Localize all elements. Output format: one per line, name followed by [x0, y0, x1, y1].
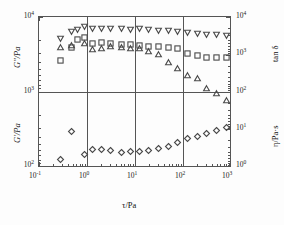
data-point-tan-delta: [184, 72, 191, 79]
data-point-tan-delta: [98, 45, 105, 52]
data-point-G-double-prime: [107, 25, 114, 32]
tick-bottom-minor: [116, 164, 117, 166]
tick-right-major: [226, 166, 230, 167]
data-point-G-double-prime-squares: [194, 52, 201, 59]
data-point-G-prime-eta: [118, 149, 125, 156]
data-point-G-double-prime: [223, 32, 230, 39]
data-point-G-double-prime-squares: [174, 45, 181, 52]
tick-right-minor: [228, 72, 230, 73]
ytick-label-left-1e3: 103: [8, 87, 34, 95]
tick-left-minor: [39, 75, 41, 76]
tick-left-minor: [39, 88, 41, 89]
data-point-G-prime-eta: [89, 146, 96, 153]
tick-bottom-minor: [80, 164, 81, 166]
tick-right-minor: [228, 118, 230, 119]
plot-frame: [38, 16, 231, 167]
data-point-G-prime-eta: [203, 130, 210, 137]
tick-left-minor: [39, 144, 41, 145]
tick-right-minor: [228, 66, 230, 67]
data-point-tan-delta: [165, 59, 172, 66]
data-point-tan-delta: [81, 40, 88, 47]
data-point-G-double-prime-squares: [223, 54, 230, 61]
data-point-G-prime-eta: [194, 133, 201, 140]
tick-bottom-minor: [76, 164, 77, 166]
tick-bottom-major: [135, 162, 136, 166]
data-point-tan-delta: [155, 51, 162, 58]
tick-bottom-minor: [124, 164, 125, 166]
tick-right-minor: [228, 90, 230, 91]
tick-bottom-minor: [130, 164, 131, 166]
tick-right-minor: [228, 121, 230, 122]
data-point-tan-delta: [194, 75, 201, 82]
data-point-tan-delta: [223, 97, 230, 104]
data-point-G-prime-eta: [223, 124, 230, 131]
data-point-tan-delta: [174, 65, 181, 72]
ytick-label-left-1e2: 102: [8, 161, 34, 169]
tick-bottom-minor: [68, 164, 69, 166]
tick-bottom-minor: [217, 164, 218, 166]
tick-bottom-minor: [101, 164, 102, 166]
tick-left-minor: [39, 150, 41, 151]
tick-bottom-minor: [82, 164, 83, 166]
tick-right-minor: [228, 28, 230, 29]
tick-top-major: [135, 17, 136, 21]
tick-bottom-minor: [128, 164, 129, 166]
data-point-tan-delta: [107, 43, 114, 50]
data-point-G-double-prime: [98, 25, 105, 32]
data-point-G-double-prime: [89, 25, 96, 32]
data-point-G-double-prime: [203, 31, 210, 38]
tick-left-minor: [39, 85, 41, 86]
data-point-G-prime-eta: [98, 146, 105, 153]
tick-right-minor: [228, 49, 230, 50]
data-point-G-prime-eta: [145, 147, 152, 154]
data-point-G-double-prime: [127, 26, 134, 33]
data-point-tan-delta: [203, 85, 210, 92]
data-point-G-double-prime: [213, 31, 220, 38]
data-point-G-double-prime-squares: [184, 50, 191, 57]
data-point-G-double-prime-squares: [165, 44, 172, 51]
tick-right-minor: [228, 155, 230, 156]
tick-right-minor: [228, 51, 230, 52]
data-point-tan-delta: [118, 44, 125, 51]
tick-bottom-minor: [197, 164, 198, 166]
tick-bottom-minor: [133, 164, 134, 166]
data-point-G-double-prime: [136, 25, 143, 32]
data-point-tan-delta: [68, 42, 75, 49]
tick-left-minor: [39, 137, 41, 138]
tick-right-minor: [228, 88, 230, 89]
data-point-G-double-prime: [165, 27, 172, 34]
data-point-G-prime-eta: [184, 135, 191, 142]
data-point-tan-delta: [127, 45, 134, 52]
tick-bottom-minor: [226, 164, 227, 166]
tick-left-minor: [39, 69, 41, 70]
tick-right-minor: [228, 115, 230, 116]
xtick-label-1e-1: 10-1: [29, 172, 41, 180]
tick-right-minor: [228, 77, 230, 78]
tick-bottom-minor: [62, 164, 63, 166]
tick-left-major: [39, 166, 43, 167]
tick-bottom-major: [39, 162, 40, 166]
tick-bottom-minor: [149, 164, 150, 166]
data-point-tan-delta: [57, 44, 64, 51]
tick-right-minor: [228, 84, 230, 85]
tick-right-minor: [228, 43, 230, 44]
tick-right-minor: [228, 158, 230, 159]
data-point-G-prime-eta: [68, 128, 75, 135]
tick-bottom-minor: [53, 164, 54, 166]
xtick-label-1e0: 100: [79, 172, 89, 180]
data-point-tan-delta: [136, 45, 143, 52]
tick-bottom-minor: [164, 164, 165, 166]
data-point-G-prime-eta: [107, 147, 114, 154]
ytick-label-right-1e4: 104: [236, 12, 246, 20]
ytick-label-right-1e3: 103: [236, 49, 246, 57]
data-point-tan-delta: [213, 90, 220, 97]
tick-bottom-minor: [73, 164, 74, 166]
xtick-label-1e2: 102: [175, 172, 185, 180]
tick-left-minor: [39, 40, 41, 41]
data-point-G-double-prime: [81, 23, 88, 30]
xtick-label-1e1: 101: [127, 172, 137, 180]
tick-left-major: [39, 92, 43, 93]
axis-title-eta: η/Pa·s: [270, 126, 280, 147]
data-point-G-prime-eta: [127, 148, 134, 155]
tick-bottom-major: [87, 162, 88, 166]
